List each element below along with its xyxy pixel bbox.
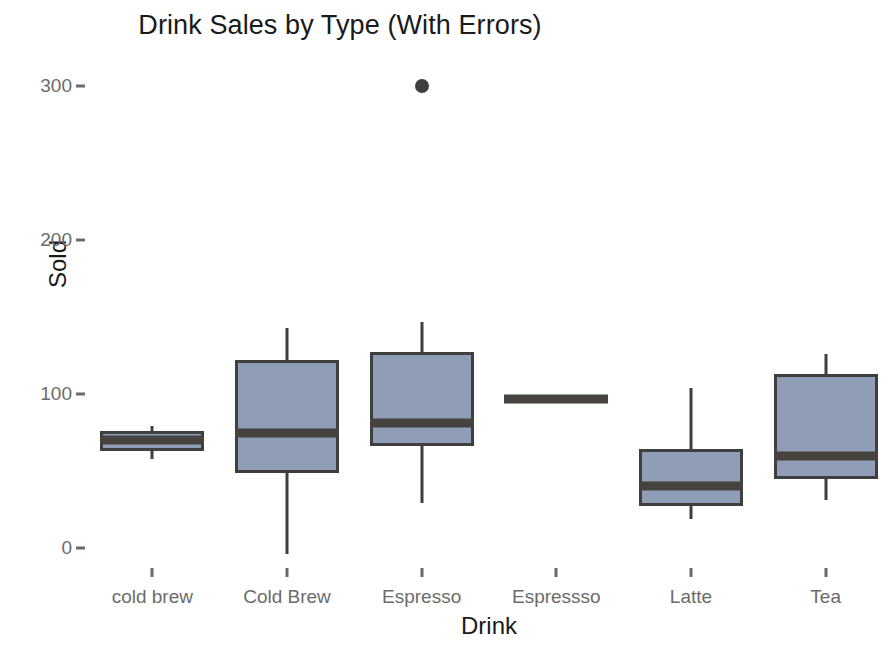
x-tick-label: Espresso (382, 586, 461, 608)
boxplot-figure: Drink Sales by Type (With Errors) Sold 0… (0, 0, 893, 648)
whisker-upper (824, 354, 827, 374)
x-tick-mark (420, 568, 423, 577)
box-body[interactable] (774, 374, 878, 479)
x-tick-mark (690, 568, 693, 577)
x-tick-mark (286, 568, 289, 577)
x-tick-mark (555, 568, 558, 577)
y-tick-label: 300 (12, 75, 72, 97)
plot-area (85, 40, 893, 560)
y-tick-mark (76, 85, 85, 88)
x-tick-label: Tea (810, 586, 841, 608)
y-tick-label: 100 (12, 383, 72, 405)
x-tick-label: Cold Brew (243, 586, 331, 608)
median-line (774, 451, 878, 460)
y-tick-mark (76, 547, 85, 550)
y-tick-label: 200 (12, 229, 72, 251)
chart-title: Drink Sales by Type (With Errors) (0, 10, 680, 41)
y-axis-title: Sold (44, 204, 72, 324)
x-tick-label: Latte (670, 586, 712, 608)
x-tick-mark (151, 568, 154, 577)
x-tick-mark (824, 568, 827, 577)
y-tick-mark (76, 393, 85, 396)
y-tick-mark (76, 239, 85, 242)
x-tick-label: Espressso (512, 586, 601, 608)
whisker-lower (824, 479, 827, 501)
x-axis-title: Drink (85, 612, 893, 640)
x-tick-label: cold brew (112, 586, 193, 608)
y-tick-label: 0 (12, 537, 72, 559)
box-group[interactable] (85, 40, 893, 560)
